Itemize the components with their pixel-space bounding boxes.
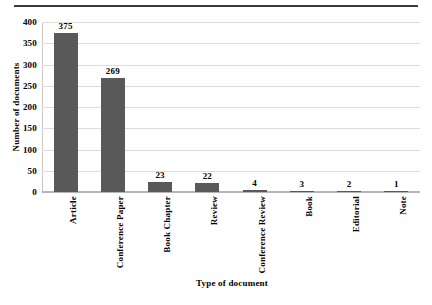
y-axis-tick-label: 250 [23,81,37,90]
bar-slot: 3 [278,22,325,192]
x-axis-tick-label-text: Note [399,196,408,215]
x-axis-tick-label: Conference Review [231,196,278,268]
bar-value-label: 3 [300,180,305,189]
bar-slot: 2 [326,22,373,192]
bar[interactable]: 4 [243,190,267,192]
y-axis-tick-label: 0 [32,188,37,197]
x-axis-tick-label: Article [42,196,89,268]
x-axis-tick-label: Book [278,196,325,268]
bar[interactable]: 23 [148,182,172,192]
bar-slot: 375 [42,22,89,192]
y-axis-tick-label: 350 [23,39,37,48]
y-axis-title: Number of documents [10,22,22,192]
x-axis-tick-label-text: Conference Review [258,196,267,273]
x-axis-tick-label-text: Article [69,196,78,224]
bar-value-label: 23 [155,171,164,180]
x-axis-tick-label: Book Chapter [137,196,184,268]
bar[interactable]: 2 [337,191,361,193]
x-axis-title-label: Type of document [196,278,268,288]
bar-value-label: 22 [203,172,212,181]
bar-slot: 4 [231,22,278,192]
bar-value-label: 269 [106,67,120,76]
y-axis-tick-label: 200 [23,103,37,112]
y-axis-tick-label: 50 [28,166,37,175]
x-axis-title: Type of document [0,278,432,288]
y-axis-title-label: Number of documents [11,62,21,151]
x-axis-tick-label: Review [184,196,231,268]
x-axis-tick-label-text: Conference Paper [116,196,125,268]
bar[interactable]: 22 [195,183,219,192]
header-rule [14,5,418,7]
bar[interactable]: 375 [54,33,78,192]
bar-value-label: 4 [252,179,257,188]
bar-chart-figure: Number of documents 05010015020025030035… [0,0,432,305]
x-axis-tick-label-text: Review [210,196,219,225]
x-axis-tick-label-text: Book Chapter [163,196,172,253]
bar-slot: 23 [137,22,184,192]
gridline [42,192,420,193]
x-axis-tick-label-text: Editorial [352,196,361,232]
bar[interactable]: 1 [384,191,408,193]
bar-series: 37526923224321 [42,22,420,192]
y-axis-tick-label: 100 [23,145,37,154]
y-axis-tick-label: 300 [23,60,37,69]
bar-value-label: 1 [394,180,399,189]
y-axis-tick-label: 150 [23,124,37,133]
bar-slot: 22 [184,22,231,192]
bar[interactable]: 3 [290,191,314,193]
x-axis-tick-labels: ArticleConference PaperBook ChapterRevie… [42,196,420,268]
x-axis-tick-label-text: Book [305,196,314,217]
bar-slot: 269 [89,22,136,192]
bar-slot: 1 [373,22,420,192]
x-axis-tick-label: Note [373,196,420,268]
plot-area: 050100150200250300350400 37526923224321 [42,22,420,192]
bar-value-label: 2 [347,180,352,189]
bar[interactable]: 269 [101,78,125,192]
y-axis-tick-label: 400 [23,18,37,27]
x-axis-tick-label: Conference Paper [89,196,136,268]
x-axis-tick-label: Editorial [326,196,373,268]
bar-value-label: 375 [59,22,73,31]
